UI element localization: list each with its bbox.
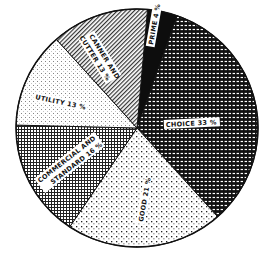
pie-chart: PRIME 4 % CHOICE 33 % GOOD 21 % COMMERCI… [0,0,267,259]
pie-slices [16,9,258,247]
